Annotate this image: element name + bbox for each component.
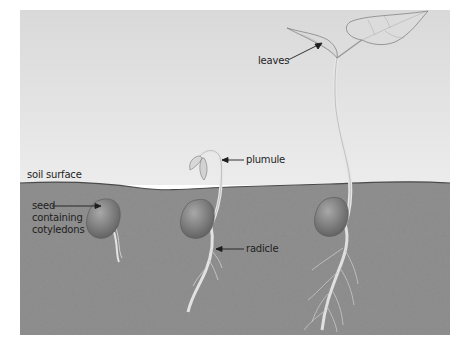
- soil-surface-label: soil surface: [27, 169, 82, 181]
- seed-label-line2: containing: [32, 212, 83, 224]
- leaves-label: leaves: [258, 55, 289, 67]
- seed-label-line1: seed: [32, 200, 55, 212]
- radicle-label: radicle: [246, 243, 278, 255]
- seed-label-line3: cotyledons: [32, 224, 84, 236]
- plumule-label: plumule: [246, 154, 285, 166]
- soil: [20, 175, 450, 340]
